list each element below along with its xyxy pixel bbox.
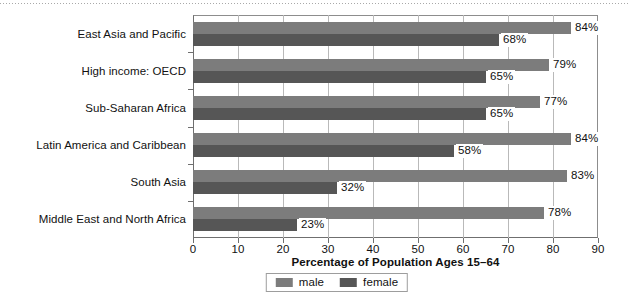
x-axis-tick-label: 90 [592, 243, 605, 255]
bar-value-label-male: 84% [573, 21, 600, 35]
x-axis-tick-label: 70 [502, 243, 515, 255]
category-label: Sub-Saharan Africa [85, 102, 186, 114]
x-axis-tick-label: 40 [367, 243, 380, 255]
x-axis-tick-label: 0 [190, 243, 197, 255]
category-label: Middle East and North Africa [39, 213, 186, 225]
bar-female [193, 34, 499, 46]
bar-value-label-male: 84% [573, 132, 600, 146]
bar-value-label-female: 23% [299, 218, 326, 232]
legend-label-male: male [299, 276, 324, 288]
bar-value-label-female: 65% [488, 70, 515, 84]
male-color-swatch [276, 278, 293, 287]
gridline [373, 15, 374, 238]
category-label: South Asia [131, 176, 186, 188]
bar-male [193, 207, 544, 219]
y-axis-tick-mark [188, 127, 194, 128]
category-label: High income: OECD [82, 65, 186, 77]
y-axis-tick-mark [188, 52, 194, 53]
x-axis-tick-label: 80 [547, 243, 560, 255]
bar-female [193, 182, 337, 194]
x-axis-tick-label: 20 [277, 243, 290, 255]
gridline [328, 15, 329, 238]
bar-value-label-male: 79% [551, 58, 578, 72]
x-axis-title: Percentage of Population Ages 15–64 [193, 256, 598, 268]
x-axis-tick-label: 30 [322, 243, 335, 255]
bar-value-label-male: 77% [542, 95, 569, 109]
bar-value-label-female: 32% [339, 181, 366, 195]
category-label: Latin America and Caribbean [36, 139, 186, 151]
bar-female [193, 145, 454, 157]
y-axis-tick-mark [188, 201, 194, 202]
plot-area [193, 15, 598, 238]
y-axis-tick-mark [188, 164, 194, 165]
bar-value-label-female: 58% [456, 144, 483, 158]
bar-value-label-female: 65% [488, 107, 515, 121]
x-axis-tick-label: 60 [457, 243, 470, 255]
bar-male [193, 170, 567, 182]
bar-female [193, 108, 486, 120]
bar-value-label-male: 78% [546, 206, 573, 220]
female-color-swatch [340, 278, 357, 287]
gridline [238, 15, 239, 238]
y-axis-tick-mark [188, 89, 194, 90]
bar-chart-figure: 84%68%79%65%77%65%84%58%83%32%78%23% 010… [0, 0, 628, 296]
legend-item-male: male [276, 276, 324, 288]
x-axis-tick-label: 50 [412, 243, 425, 255]
gridline [283, 15, 284, 238]
chart-legend: male female [266, 273, 408, 292]
category-label: East Asia and Pacific [78, 28, 186, 40]
gridline [463, 15, 464, 238]
x-axis-tick-label: 10 [232, 243, 245, 255]
bar-value-label-female: 68% [501, 33, 528, 47]
legend-item-female: female [340, 276, 398, 288]
bar-female [193, 71, 486, 83]
gridline [418, 15, 419, 238]
gridline [553, 15, 554, 238]
bar-value-label-male: 83% [569, 169, 596, 183]
bar-female [193, 219, 297, 231]
bar-male [193, 133, 571, 145]
legend-label-female: female [363, 276, 398, 288]
gridline [508, 15, 509, 238]
